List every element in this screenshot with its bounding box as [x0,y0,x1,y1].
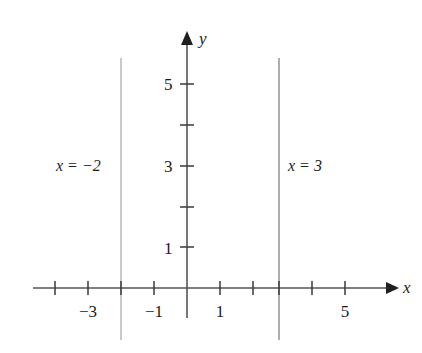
y-axis-arrow-icon [181,31,193,45]
graph-figure: y x 1 3 5 −3 −1 1 5 x = −2 x = 3 [0,0,422,353]
x-tick-label-1: 1 [216,303,225,320]
annotation-x-equals-3: x = 3 [288,158,322,174]
x-axis-arrow-icon [386,282,399,294]
coordinate-plane-svg [0,0,422,353]
y-axis-label: y [199,30,207,47]
annotation-x-equals-minus-2: x = −2 [56,158,101,174]
x-axis-label: x [403,279,411,296]
x-tick-label-minus-1: −1 [145,303,163,320]
y-tick-label-3: 3 [164,158,173,175]
y-tick-label-1: 1 [164,240,173,257]
y-tick-label-5: 5 [164,76,173,93]
x-tick-label-5: 5 [341,303,350,320]
x-tick-label-minus-3: −3 [79,303,97,320]
